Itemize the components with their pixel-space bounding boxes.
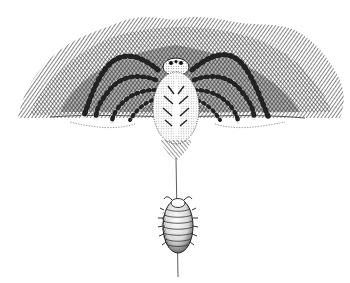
illustration: [0, 0, 350, 283]
spider-eye-icon: [169, 61, 173, 65]
spider-eye-icon: [174, 60, 177, 63]
spider-spinneret: [160, 140, 192, 160]
woodlouse: [158, 197, 198, 253]
illustration-svg: [0, 0, 350, 283]
spider-abdomen: [153, 72, 199, 144]
spider-eye-icon: [179, 61, 183, 65]
